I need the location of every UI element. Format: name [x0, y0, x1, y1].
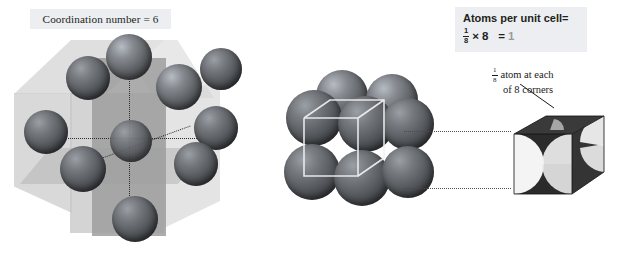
atoms-per-unit-cell-title: Atoms per unit cell= — [463, 11, 581, 25]
callout-fraction-numerator: 1 — [492, 66, 498, 74]
neighbor-sphere-back — [156, 64, 202, 110]
equation-multiplier: 8 — [482, 28, 488, 44]
equation-equals-symbol: = — [498, 28, 505, 44]
atoms-per-unit-cell-box: Atoms per unit cell= 1 8 × 8 = 1 — [455, 7, 587, 52]
unit-cell-sphere-cluster — [282, 70, 422, 220]
central-atom-sphere — [110, 120, 152, 162]
atoms-per-unit-cell-equation: 1 8 × 8 = 1 — [463, 27, 581, 45]
neighbor-sphere-left — [24, 110, 68, 154]
equation-fraction-denominator: 8 — [463, 37, 469, 45]
equation-fraction-numerator: 1 — [463, 27, 469, 35]
corner-sphere-upper-left — [66, 56, 110, 100]
callout-fraction-denominator: 8 — [492, 76, 498, 84]
diagram-canvas: Coordination number = 6 — [0, 0, 627, 259]
callout-fraction: 1 8 — [492, 66, 498, 84]
callout-leader-line — [520, 84, 560, 110]
coordination-figure — [8, 38, 240, 250]
neighbor-sphere-bottom — [112, 196, 158, 242]
corner-cutout-cube — [508, 110, 612, 204]
corner-sphere-lower-right — [174, 142, 218, 186]
connector-dotted-bottom — [404, 188, 511, 189]
corner-sphere-upper-right — [200, 48, 242, 90]
neighbor-sphere-top — [106, 34, 152, 80]
equation-fraction: 1 8 — [463, 27, 469, 45]
neighbor-sphere-front — [60, 146, 106, 192]
coordination-number-label: Coordination number = 6 — [30, 9, 171, 29]
equation-times-symbol: × — [472, 28, 479, 44]
callout-line1-text: atom at each — [501, 69, 554, 82]
equation-result: 1 — [508, 28, 514, 44]
connector-dotted-top — [404, 131, 511, 132]
unit-cell-wireframe — [282, 70, 422, 220]
